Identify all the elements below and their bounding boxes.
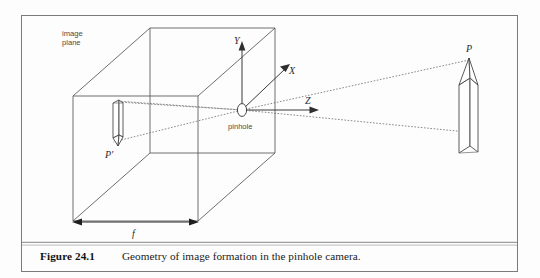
ray-base-through-pinhole — [117, 101, 467, 132]
pinhole-aperture — [237, 104, 246, 117]
image-plane-label-line1: image — [62, 29, 83, 38]
camera-box-rear-face — [150, 28, 275, 153]
axis-x-label: X — [288, 65, 296, 76]
camera-box-edge-bottom-right — [198, 153, 275, 221]
pinhole-camera-diagram: image plane Y X Z pinhole — [0, 0, 540, 278]
focal-length-label: f — [132, 228, 136, 239]
figure-border — [22, 16, 518, 272]
axis-z-arrowhead — [310, 107, 320, 114]
object-p-base-edge — [459, 152, 478, 153]
object-p-body-left — [459, 78, 470, 153]
object-p-label: P — [465, 43, 472, 54]
axis-y-arrowhead — [239, 41, 246, 51]
focal-length-arrowhead-right — [189, 218, 199, 225]
axis-y-label: Y — [234, 35, 241, 46]
object-p — [459, 58, 478, 153]
camera-box-edge-top-left — [73, 28, 150, 96]
image-p-prime — [113, 100, 123, 146]
image-plane-label-line2: plane — [62, 38, 81, 47]
image-p-prime-body-left — [113, 100, 119, 138]
figure-container: image plane Y X Z pinhole — [0, 0, 540, 278]
camera-box-edge-bottom-left — [73, 153, 150, 221]
image-p-prime-body-right — [119, 100, 123, 137]
object-p-body-right — [470, 78, 478, 152]
pinhole-label: pinhole — [228, 122, 253, 131]
axis-x-line — [244, 69, 286, 109]
axis-z-label: Z — [305, 95, 311, 106]
focal-length-arrowhead-left — [72, 218, 82, 225]
camera-box-front-face — [73, 96, 198, 221]
image-p-prime-label: P' — [104, 149, 114, 160]
image-p-prime-tip-right — [118, 135, 123, 146]
